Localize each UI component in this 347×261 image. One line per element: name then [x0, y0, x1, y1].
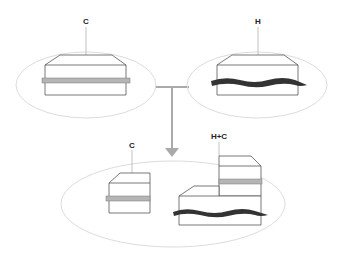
arrow-down-icon: [165, 148, 179, 157]
connector: [155, 87, 189, 148]
group-top-right-h: H: [187, 17, 327, 118]
group-top-left-c: C: [16, 17, 156, 118]
label-top-left: C: [83, 17, 89, 26]
diagram-canvas: C H C H+C: [0, 0, 347, 261]
label-bottom-right: H+C: [211, 132, 227, 141]
label-top-right: H: [255, 17, 261, 26]
label-bottom-left: C: [129, 141, 135, 150]
